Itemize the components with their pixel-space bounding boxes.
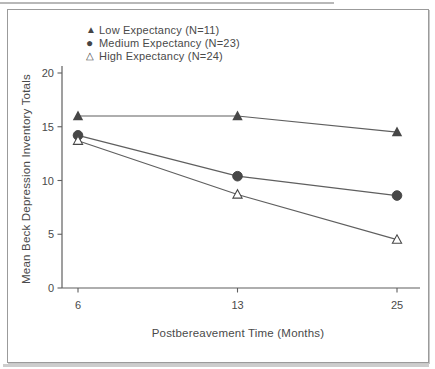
y-axis-title: Mean Beck Depression Inventory Totals xyxy=(20,74,32,284)
filled-triangle-icon: ▲ xyxy=(86,25,99,35)
x-tick-label: 6 xyxy=(75,299,81,311)
series-line xyxy=(78,135,397,195)
y-tick-label: 20 xyxy=(42,67,54,79)
legend-item-high-expectancy: △ High Expectancy (N=24) xyxy=(86,50,240,63)
legend-item-medium-expectancy: ● Medium Expectancy (N=23) xyxy=(86,36,240,49)
legend-label-medium-expectancy: Medium Expectancy (N=23) xyxy=(99,37,240,49)
filled-circle-marker xyxy=(392,191,402,201)
y-tick-label: 0 xyxy=(48,282,54,294)
x-tick-label: 25 xyxy=(391,299,403,311)
legend-label-low-expectancy: Low Expectancy (N=11) xyxy=(99,24,219,36)
filled-circle-icon: ● xyxy=(86,37,99,49)
x-tick-label: 13 xyxy=(231,299,243,311)
filled-triangle-marker xyxy=(73,110,83,120)
filled-circle-marker xyxy=(233,171,243,181)
y-tick-label: 15 xyxy=(42,121,54,133)
x-axis-title: Postbereavement Time (Months) xyxy=(152,327,325,339)
data-series xyxy=(73,110,402,243)
open-triangle-icon: △ xyxy=(86,51,99,61)
legend-label-high-expectancy: High Expectancy (N=24) xyxy=(99,50,223,62)
series-low-expectancy-n-11 xyxy=(73,110,402,136)
legend-item-low-expectancy: ▲ Low Expectancy (N=11) xyxy=(86,23,240,36)
y-tick-label: 10 xyxy=(42,175,54,187)
axes: 0510152061325 xyxy=(42,66,420,311)
chart-legend: ▲ Low Expectancy (N=11) ● Medium Expecta… xyxy=(86,23,240,63)
filled-triangle-marker xyxy=(232,110,242,120)
y-tick-label: 5 xyxy=(48,228,54,240)
